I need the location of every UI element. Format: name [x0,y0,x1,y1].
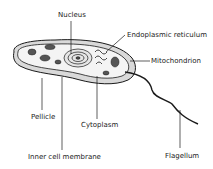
cell-illustration [0,0,213,169]
label-pellicle: Pellicle [31,113,55,121]
nucleus-shape [64,49,92,67]
label-endoplasmic-reticulum: Endoplasmic reticulum [127,31,207,39]
label-inner-cell-membrane: Inner cell membrane [28,153,101,161]
label-flagellum: Flagellum [165,152,199,160]
label-nucleus: Nucleus [58,11,86,19]
cell-diagram: Nucleus Endoplasmic reticulum Mitochondr… [0,0,213,169]
label-cytoplasm: Cytoplasm [81,121,118,129]
flagellum-shape [125,72,198,124]
label-mitochondrion: Mitochondrion [151,57,201,65]
